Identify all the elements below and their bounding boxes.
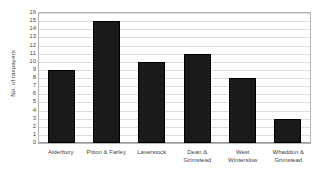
y-axis-tick-label: 10 (22, 58, 36, 64)
y-axis-tick-label: 11 (22, 50, 36, 56)
x-axis-tick-label: West Winterslow (220, 148, 266, 178)
y-axis-tick-label: 15 (22, 17, 36, 23)
y-axis-tick-label: 6 (22, 90, 36, 96)
y-axis-tick-label: 5 (22, 98, 36, 104)
y-axis-tick-label: 4 (22, 107, 36, 113)
y-axis-title: No. of taxpayers (4, 0, 20, 146)
bar-slot (129, 13, 174, 143)
y-axis-tick-label: 2 (22, 123, 36, 129)
bar-slot (39, 13, 84, 143)
y-axis-tick-label: 7 (22, 82, 36, 88)
bar-chart: No. of taxpayers 16151413121110987654321… (0, 0, 327, 181)
y-axis-tick-label: 9 (22, 66, 36, 72)
bar-slot (175, 13, 220, 143)
x-axis-tick-label: Dean & Grimstead (175, 148, 221, 178)
x-axis-tick-label: Whaddon & Grimstead (266, 148, 312, 178)
y-axis-tick-labels: 161514131211109876543210 (22, 12, 36, 144)
bar-slot (84, 13, 129, 143)
x-axis-tick-label: Alderbury (38, 148, 84, 178)
bar[interactable] (93, 21, 120, 143)
y-axis-tick-label: 1 (22, 131, 36, 137)
bar[interactable] (184, 54, 211, 143)
plot-area (38, 12, 311, 144)
bar[interactable] (229, 78, 256, 143)
y-axis-tick-label: 13 (22, 33, 36, 39)
y-axis-tick-label: 3 (22, 115, 36, 121)
x-axis-tick-label: Pitton & Farley (84, 148, 130, 178)
x-axis-tick-label: Laverstock (129, 148, 175, 178)
y-axis-tick-label: 8 (22, 74, 36, 80)
y-axis-tick-label: 0 (22, 139, 36, 145)
y-axis-tick-label: 12 (22, 42, 36, 48)
x-axis-tick-labels: AlderburyPitton & FarleyLaverstockDean &… (38, 148, 311, 178)
y-axis-tick-label: 16 (22, 9, 36, 15)
bar-slot (220, 13, 265, 143)
y-axis-title-text: No. of taxpayers (9, 50, 16, 97)
bar[interactable] (138, 62, 165, 143)
bar-slot (265, 13, 310, 143)
bars-layer (39, 13, 310, 143)
bar[interactable] (48, 70, 75, 143)
y-axis-tick-label: 14 (22, 25, 36, 31)
bar[interactable] (274, 119, 301, 143)
